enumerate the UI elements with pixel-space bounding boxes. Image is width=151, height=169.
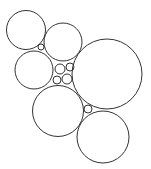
circle-top-middle — [44, 23, 82, 61]
circle-small-gap-bottom — [84, 105, 92, 113]
circle-small-center-3 — [53, 76, 61, 84]
circle-packing-diagram — [0, 0, 151, 169]
circle-middle-left — [15, 51, 53, 89]
circle-small-gap-top — [38, 44, 44, 50]
circle-small-center-4 — [62, 74, 72, 84]
circle-large-right — [72, 39, 142, 109]
circle-bottom-middle — [33, 86, 84, 137]
circle-small-center-1 — [55, 64, 65, 74]
circle-top-left — [7, 11, 46, 50]
circle-bottom-right — [77, 111, 129, 163]
